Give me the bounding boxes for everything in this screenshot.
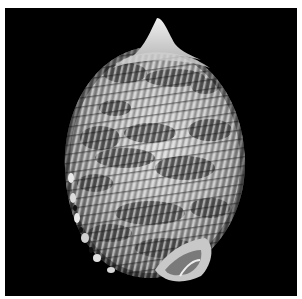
shell-photo xyxy=(5,8,297,296)
shell-apex xyxy=(113,18,210,68)
photo-frame xyxy=(5,8,297,296)
